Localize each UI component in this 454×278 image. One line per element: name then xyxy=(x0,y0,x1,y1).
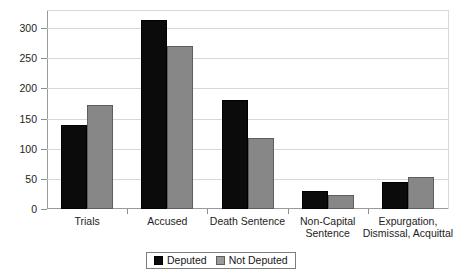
x-axis-category-label-line: Accused xyxy=(121,215,213,227)
x-axis-category-label: Death Sentence xyxy=(201,215,293,227)
legend-label: Deputed xyxy=(167,255,207,266)
legend-entry: Not Deputed xyxy=(216,255,288,266)
bar-deputed xyxy=(141,20,167,209)
gridline xyxy=(47,88,448,89)
gridline xyxy=(47,28,448,29)
y-axis-tick-label: 0 xyxy=(0,204,37,215)
y-axis-tick-label: 150 xyxy=(0,114,37,125)
x-axis-category-label-line: Death Sentence xyxy=(201,215,293,227)
gridline xyxy=(47,58,448,59)
bar-deputed xyxy=(382,182,408,209)
bar-deputed xyxy=(302,191,328,209)
y-axis-tick xyxy=(41,28,47,29)
black-square-swatch xyxy=(154,256,163,265)
x-axis-category-label: Non-CapitalSentence xyxy=(282,215,374,239)
x-axis-tick xyxy=(127,209,128,214)
y-axis-tick-label: 100 xyxy=(0,144,37,155)
y-axis-tick-label: 300 xyxy=(0,23,37,34)
y-axis-tick xyxy=(41,58,47,59)
chart-legend: DeputedNot Deputed xyxy=(146,252,296,269)
y-axis-tick xyxy=(41,179,47,180)
bar-not-deputed xyxy=(328,195,354,209)
bar-chart: 050100150200250300 TrialsAccusedDeath Se… xyxy=(0,0,454,278)
x-axis-category-label-line: Sentence xyxy=(282,227,374,239)
y-axis-tick xyxy=(41,88,47,89)
bar-deputed xyxy=(61,125,87,209)
x-axis-category-label: Expurgation,Dismissal, Acquittal xyxy=(362,215,454,239)
x-axis-category-label-line: Non-Capital xyxy=(282,215,374,227)
x-axis-category-label: Accused xyxy=(121,215,213,227)
x-axis-tick xyxy=(368,209,369,214)
y-axis-tick xyxy=(41,209,47,210)
x-axis-category-label-line: Expurgation, xyxy=(362,215,454,227)
legend-label: Not Deputed xyxy=(229,255,288,266)
bar-not-deputed xyxy=(408,177,434,209)
x-axis-tick xyxy=(288,209,289,214)
plot-frame-right-border xyxy=(448,10,449,209)
y-axis-tick xyxy=(41,119,47,120)
y-axis-tick-label: 50 xyxy=(0,174,37,185)
x-axis-tick xyxy=(207,209,208,214)
x-axis-category-label: Trials xyxy=(41,215,133,227)
gray-square-swatch xyxy=(216,256,225,265)
bar-not-deputed xyxy=(248,138,274,209)
bar-not-deputed xyxy=(87,105,113,209)
x-axis-category-label-line: Dismissal, Acquittal xyxy=(362,227,454,239)
bar-deputed xyxy=(222,100,248,209)
legend-entry: Deputed xyxy=(154,255,207,266)
y-axis-tick-label: 200 xyxy=(0,83,37,94)
bar-not-deputed xyxy=(167,46,193,209)
y-axis-tick-label: 250 xyxy=(0,53,37,64)
y-axis-tick xyxy=(41,149,47,150)
x-axis-category-label-line: Trials xyxy=(41,215,133,227)
